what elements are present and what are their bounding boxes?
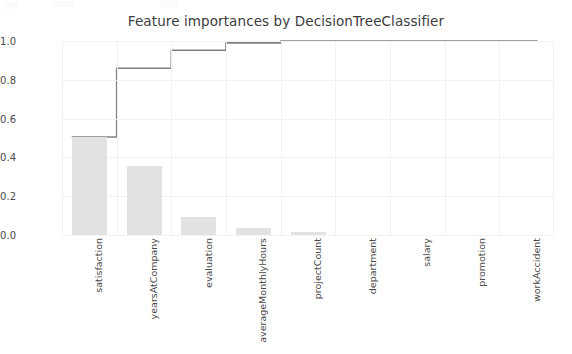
gridline-vertical (390, 41, 391, 235)
y-tick-label: 1.0 (0, 36, 16, 47)
bar (291, 232, 326, 235)
gridline-vertical (499, 41, 500, 235)
bar (127, 166, 162, 235)
gridline-horizontal (62, 157, 554, 158)
y-tick-label: 0.4 (0, 152, 16, 163)
gridline-vertical (281, 41, 282, 235)
plot-area (62, 41, 554, 235)
chart-figure: Feature importances by DecisionTreeClass… (0, 0, 572, 354)
y-tick-label: 0.8 (0, 74, 16, 85)
gridline-vertical (171, 41, 172, 235)
x-tick-label: workAccident (531, 238, 542, 302)
scan-artifact (4, 2, 18, 9)
gridline-horizontal (62, 80, 554, 81)
bar (236, 228, 271, 235)
gridline-vertical (335, 41, 336, 235)
y-tick-label: 0.0 (0, 230, 16, 241)
chart-title: Feature importances by DecisionTreeClass… (0, 13, 572, 29)
bar (181, 217, 216, 235)
scan-artifact (52, 1, 74, 7)
gridline-vertical (62, 41, 63, 235)
gridline-horizontal (62, 41, 554, 42)
gridline-horizontal (62, 235, 554, 236)
gridline-vertical (553, 41, 554, 235)
x-tick-label: promotion (476, 238, 487, 287)
bar (72, 137, 107, 235)
x-tick-label: yearsAtCompany (148, 238, 159, 319)
x-tick-label: satisfaction (93, 238, 104, 293)
y-tick-label: 0.2 (0, 191, 16, 202)
y-tick-label: 0.6 (0, 113, 16, 124)
x-axis: satisfactionyearsAtCompanyevaluationaver… (62, 238, 554, 348)
gridline-horizontal (62, 119, 554, 120)
gridline-vertical (117, 41, 118, 235)
x-tick-label: evaluation (203, 238, 214, 288)
gridline-vertical (226, 41, 227, 235)
x-tick-label: averageMonthlyHours (257, 238, 268, 343)
x-tick-label: projectCount (312, 238, 323, 299)
gridline-vertical (445, 41, 446, 235)
x-tick-label: department (367, 238, 378, 294)
x-tick-label: salary (421, 238, 432, 267)
scan-artifact (160, 1, 178, 8)
